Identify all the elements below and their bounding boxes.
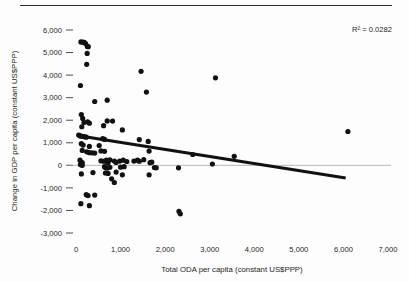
data-point xyxy=(213,75,218,80)
data-point xyxy=(124,159,129,164)
data-point xyxy=(92,150,97,155)
data-point xyxy=(107,157,112,162)
x-tick-label: 2,000 xyxy=(156,245,175,254)
data-point xyxy=(102,149,107,154)
data-point xyxy=(114,170,119,175)
data-point xyxy=(110,119,115,124)
data-point xyxy=(138,69,143,74)
data-point xyxy=(105,118,110,123)
data-point xyxy=(79,171,84,176)
data-point xyxy=(146,139,151,144)
data-point xyxy=(154,165,159,170)
data-point xyxy=(92,193,97,198)
data-point xyxy=(101,123,106,128)
data-point xyxy=(345,129,350,134)
data-point xyxy=(120,172,125,177)
x-axis-title: Total ODA per capita (constant US$PPP) xyxy=(161,265,303,274)
x-tick-label: 5,000 xyxy=(289,245,308,254)
x-axis-tick-labels: 01,0002,0003,0004,0005,0006,0007,000 xyxy=(74,245,398,254)
x-tick-label: 0 xyxy=(74,245,78,254)
data-point xyxy=(78,83,83,88)
data-point xyxy=(105,171,110,176)
y-tick-label: 0 xyxy=(58,161,62,170)
x-tick-label: 4,000 xyxy=(245,245,264,254)
y-tick-label: 5,000 xyxy=(43,48,62,57)
data-point xyxy=(87,144,92,149)
x-tick-label: 1,000 xyxy=(111,245,130,254)
data-point xyxy=(120,127,125,132)
y-tick-label: 1,000 xyxy=(43,138,62,147)
data-point xyxy=(137,159,142,164)
trend-line xyxy=(79,136,346,178)
data-point xyxy=(112,180,117,185)
y-tick-label: -2,000 xyxy=(40,206,62,215)
y-tick-label: -3,000 xyxy=(40,229,62,238)
data-point xyxy=(141,157,146,162)
data-point xyxy=(210,161,215,166)
data-point xyxy=(178,211,183,216)
data-point xyxy=(176,165,181,170)
data-point xyxy=(97,143,102,148)
y-tick-label: 3,000 xyxy=(43,93,62,102)
data-points xyxy=(76,39,350,216)
y-tick-label: 4,000 xyxy=(43,71,62,80)
data-point xyxy=(146,172,151,177)
data-point xyxy=(87,121,92,126)
data-point xyxy=(137,137,142,142)
data-point xyxy=(146,149,151,154)
y-tick-label: -1,000 xyxy=(40,184,62,193)
data-point xyxy=(81,142,86,147)
y-axis-tick-labels: -3,000-2,000-1,00001,0002,0003,0004,0005… xyxy=(40,26,62,238)
data-point xyxy=(85,193,90,198)
data-point xyxy=(92,99,97,104)
data-point xyxy=(149,160,154,165)
figure-container: -3,000-2,000-1,00001,0002,0003,0004,0005… xyxy=(0,0,409,282)
y-tick-label: 6,000 xyxy=(43,26,62,35)
data-point xyxy=(79,124,84,129)
data-point xyxy=(78,201,83,206)
data-point xyxy=(107,165,112,170)
data-point xyxy=(105,98,110,103)
x-tick-label: 6,000 xyxy=(334,245,353,254)
data-point xyxy=(87,203,92,208)
y-axis-title: Change in GDP per capita (constant US$PP… xyxy=(10,50,19,211)
data-point xyxy=(86,44,91,49)
data-point xyxy=(122,164,127,169)
data-point xyxy=(80,163,85,168)
r-squared-annotation: R² = 0.0282 xyxy=(352,25,392,34)
data-point xyxy=(85,51,90,56)
y-tick-label: 2,000 xyxy=(43,116,62,125)
x-tick-label: 7,000 xyxy=(378,245,397,254)
data-point xyxy=(80,148,85,153)
data-point xyxy=(232,154,237,159)
x-tick-label: 3,000 xyxy=(200,245,219,254)
scatter-plot: -3,000-2,000-1,00001,0002,0003,0004,0005… xyxy=(0,0,409,282)
data-point xyxy=(90,170,95,175)
data-point xyxy=(84,62,89,67)
y-axis-tick-marks xyxy=(66,30,73,233)
data-point xyxy=(144,89,149,94)
